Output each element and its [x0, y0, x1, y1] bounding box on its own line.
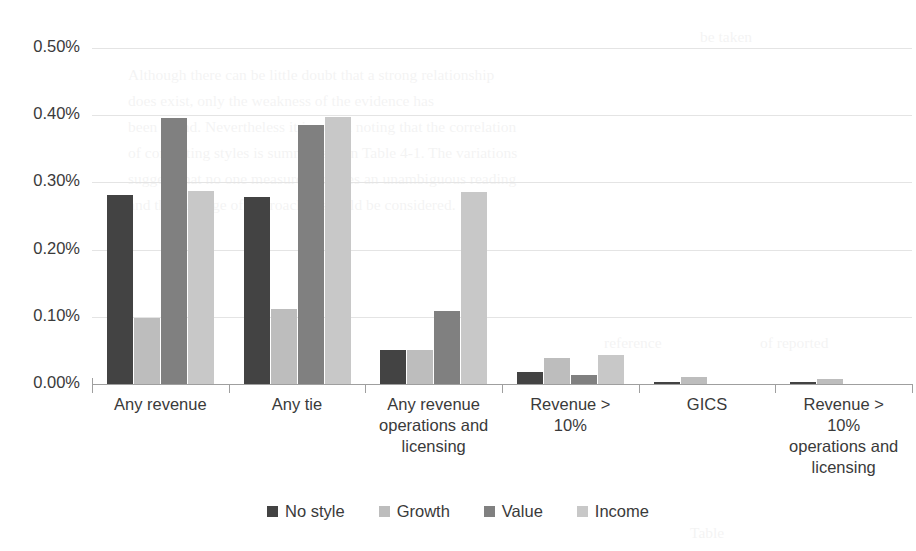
- bar-growth: [407, 350, 433, 384]
- legend-item-income[interactable]: Income: [577, 502, 649, 521]
- y-axis-tick-label: 0.30%: [16, 171, 80, 190]
- legend-label: Growth: [397, 502, 450, 521]
- bar-income: [188, 191, 214, 384]
- x-axis-category-label: Revenue >10%: [502, 394, 639, 436]
- legend-label: Income: [595, 502, 649, 521]
- x-axis-category-label: Any revenueoperations andlicensing: [365, 394, 502, 457]
- category-label-line: Any revenue: [365, 394, 502, 415]
- bar-value: [434, 311, 460, 384]
- bar-no-style: [654, 382, 680, 384]
- bar-no-style: [517, 372, 543, 384]
- x-axis-tick: [639, 384, 640, 393]
- gridline: [92, 250, 912, 251]
- y-axis-tick-label: 0.50%: [16, 37, 80, 56]
- x-axis-tick: [502, 384, 503, 393]
- bar-value: [571, 375, 597, 384]
- legend-item-value[interactable]: Value: [484, 502, 543, 521]
- legend-item-no-style[interactable]: No style: [267, 502, 345, 521]
- plot-area: [92, 48, 912, 384]
- x-axis-tick: [92, 384, 93, 393]
- bar-income: [598, 355, 624, 384]
- bar-growth: [681, 377, 707, 384]
- category-label-line: 10%: [502, 415, 639, 436]
- bar-value: [161, 118, 187, 384]
- legend-swatch-icon: [267, 506, 278, 517]
- x-axis-category-label: Revenue >10%operations andlicensing: [775, 394, 912, 478]
- category-label-line: operations and: [775, 436, 912, 457]
- gridline: [92, 317, 912, 318]
- bar-no-style: [107, 195, 133, 384]
- y-axis-tick-label: 0.20%: [16, 239, 80, 258]
- legend-swatch-icon: [484, 506, 495, 517]
- legend-swatch-icon: [379, 506, 390, 517]
- bar-income: [461, 192, 487, 384]
- x-axis-category-label: GICS: [639, 394, 776, 415]
- bar-growth: [817, 379, 843, 384]
- bar-no-style: [244, 197, 270, 384]
- category-label-line: licensing: [365, 436, 502, 457]
- category-label-line: licensing: [775, 457, 912, 478]
- gridline: [92, 182, 912, 183]
- gridline: [92, 115, 912, 116]
- x-axis-tick: [365, 384, 366, 393]
- bar-growth: [134, 318, 160, 384]
- bar-no-style: [790, 382, 816, 384]
- bar-growth: [271, 309, 297, 384]
- x-axis-tick: [775, 384, 776, 393]
- x-axis-tick: [912, 384, 913, 393]
- category-label-line: GICS: [639, 394, 776, 415]
- category-label-line: Revenue >: [775, 394, 912, 415]
- category-label-line: Any revenue: [92, 394, 229, 415]
- bar-income: [325, 117, 351, 384]
- x-axis-tick: [229, 384, 230, 393]
- chart-legend: No styleGrowthValueIncome: [0, 502, 916, 521]
- y-axis-tick-label: 0.00%: [16, 373, 80, 392]
- legend-swatch-icon: [577, 506, 588, 517]
- legend-label: Value: [502, 502, 543, 521]
- bar-value: [298, 125, 324, 384]
- bar-growth: [544, 358, 570, 384]
- gridline: [92, 48, 912, 49]
- x-axis-category-label: Any revenue: [92, 394, 229, 415]
- category-label-line: 10%: [775, 415, 912, 436]
- y-axis-tick-label: 0.40%: [16, 104, 80, 123]
- x-axis-category-label: Any tie: [229, 394, 366, 415]
- grouped-bar-chart: 0.00%0.10%0.20%0.30%0.40%0.50% Any reven…: [0, 0, 916, 551]
- legend-label: No style: [285, 502, 345, 521]
- bar-no-style: [380, 350, 406, 384]
- category-label-line: Any tie: [229, 394, 366, 415]
- category-label-line: Revenue >: [502, 394, 639, 415]
- legend-item-growth[interactable]: Growth: [379, 502, 450, 521]
- category-label-line: operations and: [365, 415, 502, 436]
- y-axis-tick-label: 0.10%: [16, 306, 80, 325]
